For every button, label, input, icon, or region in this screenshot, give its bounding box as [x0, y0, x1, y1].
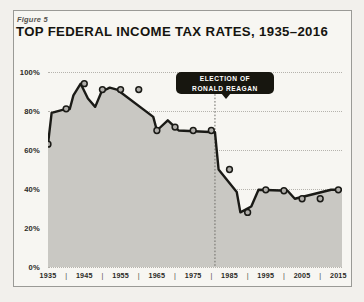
x-axis-minor-tick: | — [210, 271, 212, 280]
x-axis-minor-tick: | — [283, 271, 285, 280]
chart-title: TOP FEDERAL INCOME TAX RATES, 1935–2016 — [16, 24, 328, 39]
tax-rate-line-chart — [48, 72, 342, 267]
y-axis-tick-label: 60% — [24, 146, 40, 155]
data-point-marker — [100, 87, 106, 93]
data-point-marker — [208, 128, 214, 134]
x-axis-tick-label: 1955 — [112, 271, 129, 280]
data-point-marker — [172, 124, 178, 130]
data-point-marker — [281, 188, 287, 194]
x-axis: 193519451955196519751985199520052015||||… — [48, 271, 342, 285]
data-point-marker — [227, 167, 233, 173]
x-axis-minor-tick: | — [138, 271, 140, 280]
x-axis-tick-label: 1995 — [257, 271, 274, 280]
callout-pointer-icon — [221, 93, 231, 99]
y-axis-tick-label: 40% — [24, 185, 40, 194]
reagan-annotation-callout: ELECTION OF RONALD REAGAN — [176, 72, 274, 94]
x-axis-tick-label: 2015 — [330, 271, 347, 280]
x-axis-tick-label: 2005 — [294, 271, 311, 280]
y-axis-tick-label: 80% — [24, 107, 40, 116]
data-point-marker — [190, 128, 196, 134]
x-axis-minor-tick: | — [65, 271, 67, 280]
data-point-marker — [245, 210, 251, 216]
x-axis-tick-label: 1975 — [185, 271, 202, 280]
data-point-marker — [263, 187, 269, 193]
x-axis-minor-tick: | — [247, 271, 249, 280]
data-point-marker — [63, 106, 69, 112]
data-point-marker — [317, 196, 323, 202]
x-axis-tick-label: 1965 — [148, 271, 165, 280]
x-axis-minor-tick: | — [174, 271, 176, 280]
y-axis-tick-label: 0% — [29, 263, 40, 272]
data-point-marker — [299, 196, 305, 202]
data-point-marker — [118, 87, 124, 93]
area-fill — [48, 84, 342, 267]
x-axis-tick-label: 1945 — [76, 271, 93, 280]
data-point-marker — [136, 87, 142, 93]
y-axis-tick-label: 20% — [24, 224, 40, 233]
x-axis-minor-tick: | — [319, 271, 321, 280]
data-point-marker — [335, 187, 341, 193]
y-axis-tick-label: 100% — [20, 68, 40, 77]
x-axis-minor-tick: | — [102, 271, 104, 280]
y-axis: 0%20%40%60%80%100% — [0, 72, 44, 267]
x-axis-tick-label: 1985 — [221, 271, 238, 280]
data-point-marker — [81, 81, 87, 87]
x-axis-tick-label: 1935 — [40, 271, 57, 280]
data-point-marker — [48, 141, 51, 147]
callout-line-1: ELECTION OF — [176, 74, 274, 84]
figure-label: Figure 5 — [17, 15, 48, 24]
plot-area — [48, 72, 342, 267]
gridline — [48, 267, 342, 268]
data-point-marker — [154, 128, 160, 134]
